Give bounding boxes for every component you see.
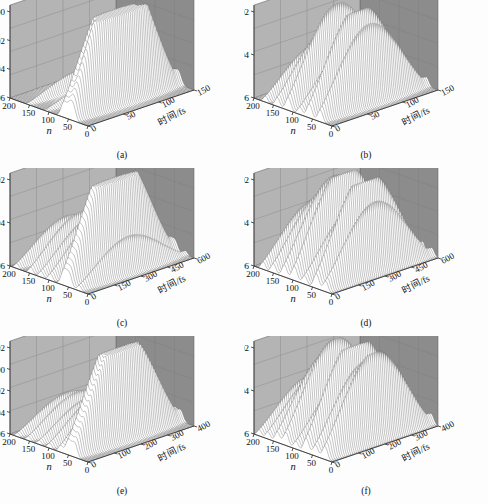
x-tick-label: 0 [329, 129, 334, 139]
waterfall-plot-d: 0.020.040.06δ200150100500n0150300450600时… [244, 168, 488, 336]
x-tick-label: 0 [85, 297, 90, 307]
z-tick-label: - 0.02 [0, 343, 5, 353]
x-tick-label: 100 [285, 451, 299, 461]
panel-c: 0.020.040.06δ200150100500n0150300450600时… [0, 168, 244, 336]
waterfall-plot-c: 0.020.040.06δ200150100500n0150300450600时… [0, 168, 244, 336]
panel-caption-a: (a) [0, 150, 244, 160]
y-axis-title: 时间/fs [156, 272, 187, 296]
x-tick-label: 150 [266, 444, 280, 454]
z-tick-label: 0.02 [0, 175, 5, 185]
y-axis-title: 时间/fs [156, 104, 187, 128]
x-axis-title: n [290, 125, 295, 136]
panel-caption-e: (e) [0, 486, 244, 496]
waterfall-plot-e: - 0.020.000.020.040.06δ200150100500n0100… [0, 336, 244, 504]
x-tick-label: 50 [307, 458, 317, 468]
x-tick-label: 50 [63, 290, 73, 300]
y-tick-label: 600 [195, 250, 212, 265]
x-axis-title: n [290, 461, 295, 472]
x-tick-label: 0 [329, 297, 334, 307]
z-tick-label: 0.04 [0, 218, 6, 228]
x-tick-label: 150 [266, 276, 280, 286]
panel-caption-d: (d) [244, 318, 488, 328]
z-tick-label: 0.02 [0, 36, 5, 46]
x-tick-label: 0 [85, 129, 90, 139]
figure-root: 0.000.020.040.06δ200150100500n050100150时… [0, 0, 488, 504]
z-tick-label: 0.04 [244, 386, 250, 396]
z-tick-label: 0.04 [244, 50, 250, 60]
x-tick-label: 0 [85, 465, 90, 475]
x-axis-title: n [46, 293, 51, 304]
x-tick-label: 200 [2, 101, 16, 111]
y-tick-label: 600 [439, 250, 456, 265]
z-tick-labels: 0.020.040.06 [244, 343, 254, 439]
x-tick-label: 100 [41, 115, 55, 125]
panel-e: - 0.020.000.020.040.06δ200150100500n0100… [0, 336, 244, 504]
x-tick-label: 50 [63, 458, 73, 468]
z-tick-labels: 0.020.040.06 [244, 175, 254, 271]
z-tick-label: 0.00 [0, 365, 6, 375]
y-axis-title: 时间/fs [400, 272, 431, 296]
x-tick-label: 150 [266, 108, 280, 118]
y-axis-title: 时间/fs [400, 104, 431, 128]
x-tick-label: 100 [285, 283, 299, 293]
z-tick-label: 0.02 [244, 343, 249, 353]
x-tick-label: 200 [246, 101, 260, 111]
z-tick-labels: 0.020.040.06 [0, 175, 10, 271]
y-axis-title: 时间/fs [400, 440, 431, 464]
y-tick-label: 0 [333, 459, 342, 470]
z-tick-label: 0.02 [244, 7, 249, 17]
x-axis-title: n [46, 125, 51, 136]
x-tick-label: 50 [307, 290, 317, 300]
panel-caption-f: (f) [244, 486, 488, 496]
y-tick-label: 150 [439, 82, 456, 97]
y-tick-label: 0 [89, 291, 98, 302]
panel-b: 0.020.040.06δ200150100500n050100150时间/fs… [244, 0, 488, 168]
panel-f: 0.020.040.06δ200150100500n0100200300400时… [244, 336, 488, 504]
y-axis-title: 时间/fs [156, 440, 187, 464]
x-axis-title: n [46, 461, 51, 472]
panel-caption-c: (c) [0, 318, 244, 328]
x-tick-label: 200 [246, 269, 260, 279]
panel-caption-b: (b) [244, 150, 488, 160]
z-tick-label: 0.04 [0, 408, 6, 418]
panel-d: 0.020.040.06δ200150100500n0150300450600时… [244, 168, 488, 336]
x-tick-label: 0 [329, 465, 334, 475]
z-tick-label: 0.04 [244, 218, 250, 228]
panel-a: 0.000.020.040.06δ200150100500n050100150时… [0, 0, 244, 168]
x-tick-label: 200 [246, 437, 260, 447]
y-tick-label: 0 [89, 459, 98, 470]
x-tick-label: 150 [22, 108, 36, 118]
x-tick-label: 100 [41, 283, 55, 293]
y-tick-label: 400 [439, 418, 456, 433]
x-tick-label: 50 [63, 122, 73, 132]
y-tick-label: 0 [333, 123, 342, 134]
y-tick-label: 400 [195, 418, 212, 433]
waterfall-plot-a: 0.000.020.040.06δ200150100500n050100150时… [0, 0, 244, 168]
x-tick-label: 100 [41, 451, 55, 461]
x-tick-label: 50 [307, 122, 317, 132]
y-tick-label: 150 [195, 82, 212, 97]
x-tick-label: 150 [22, 444, 36, 454]
x-axis-title: n [290, 293, 295, 304]
z-tick-label: 0.00 [0, 7, 6, 17]
x-tick-label: 200 [2, 437, 16, 447]
waterfall-plot-f: 0.020.040.06δ200150100500n0100200300400时… [244, 336, 488, 504]
z-tick-label: 0.04 [0, 64, 6, 74]
y-tick-label: 0 [333, 291, 342, 302]
x-tick-label: 100 [285, 115, 299, 125]
z-tick-label: 0.02 [244, 175, 249, 185]
x-tick-label: 200 [2, 269, 16, 279]
z-tick-labels: 0.000.020.040.06 [0, 7, 10, 103]
y-tick-label: 0 [89, 123, 98, 134]
z-tick-labels: - 0.020.000.020.040.06 [0, 343, 10, 439]
z-tick-label: 0.02 [0, 386, 5, 396]
z-tick-labels: 0.020.040.06 [244, 7, 254, 103]
x-tick-label: 150 [22, 276, 36, 286]
waterfall-plot-b: 0.020.040.06δ200150100500n050100150时间/fs [244, 0, 488, 168]
